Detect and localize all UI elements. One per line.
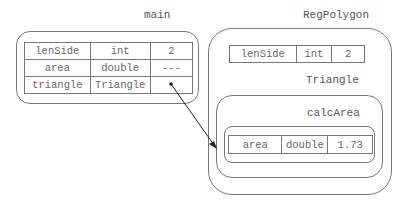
arrowhead-icon	[209, 141, 217, 149]
reference-arrow	[0, 0, 406, 205]
